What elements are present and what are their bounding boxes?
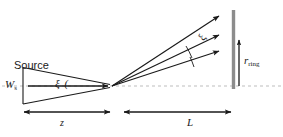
ring-radius-subscript: ring [248, 60, 259, 68]
source-label: Source [14, 60, 49, 71]
source-width-symbol: W [5, 78, 14, 90]
distance-z-label: z [60, 118, 64, 128]
ray-upper [112, 16, 219, 86]
ray-middle [112, 35, 219, 86]
source-angle-label: ξ ( [55, 78, 69, 89]
ray-diagram-figure: Source Ws ξ ( ξ rring z L [0, 0, 283, 137]
source-width-subscript: s [14, 84, 17, 92]
ring-radius-label: rring [244, 55, 260, 66]
ray-angle-arc-lower [190, 57, 194, 67]
ray-lower [112, 51, 219, 86]
source-cone-bottom-edge [23, 88, 110, 105]
source-width-label: Ws [5, 79, 17, 90]
distance-L-label: L [187, 117, 193, 128]
